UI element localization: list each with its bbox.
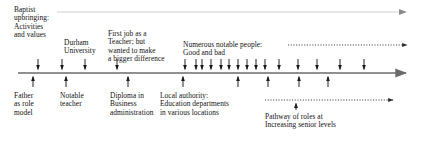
label-baptist-upbringing: Baptist upbringing: Activities and value… — [14, 6, 49, 40]
role-up-arrows — [33, 77, 328, 87]
label-first-job-teacher: First job as a Teacher; but wanted to ma… — [108, 30, 165, 64]
timeline-diagram: Baptist upbringing: Activities and value… — [0, 0, 421, 145]
label-local-authority-education: Local authority: Education departments i… — [160, 92, 229, 117]
label-father-as-role-model: Father as role model — [14, 92, 34, 117]
label-notable-teacher: Notable teacher — [60, 92, 84, 109]
diagram-vector-layer — [0, 0, 421, 145]
influence-down-arrows — [38, 59, 364, 69]
label-durham-university: Durham University — [64, 39, 96, 56]
label-numerous-notable-people: Numerous notable people: Good and bad — [183, 41, 262, 58]
label-pathway-of-roles: Pathway of roles at Increasing senior le… — [265, 113, 336, 130]
label-diploma-business-administration: Diploma in Business administration — [110, 92, 153, 117]
